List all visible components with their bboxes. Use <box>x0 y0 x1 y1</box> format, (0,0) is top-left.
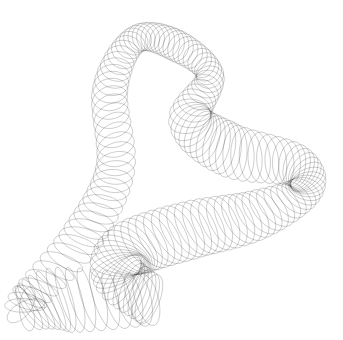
background <box>0 0 343 340</box>
harmonograph-artwork <box>0 0 343 340</box>
